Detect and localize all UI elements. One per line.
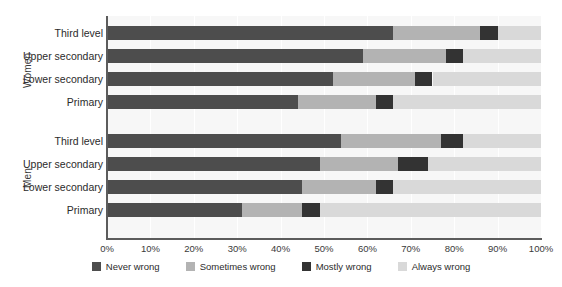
bar-segment	[107, 203, 242, 217]
x-tick-label: 50%	[314, 243, 333, 254]
bar-segment	[441, 134, 463, 148]
category-label: Third level	[3, 28, 103, 39]
category-label: Primary	[3, 97, 103, 108]
bar-row	[107, 203, 541, 217]
category-label: Lower secondary	[3, 74, 103, 85]
bar-segment	[428, 157, 541, 171]
bar-row	[107, 180, 541, 194]
legend-item[interactable]: Mostly wrong	[302, 261, 372, 272]
bar-segment	[341, 134, 441, 148]
bar-segment	[320, 157, 398, 171]
category-axis: Third levelUpper secondaryLower secondar…	[0, 0, 103, 240]
bar-segment	[107, 134, 341, 148]
bar-row	[107, 157, 541, 171]
x-tick-label: 90%	[488, 243, 507, 254]
bar-segment	[498, 26, 541, 40]
bar-segment	[107, 180, 302, 194]
legend-item[interactable]: Sometimes wrong	[186, 261, 276, 272]
bar-segment	[107, 26, 393, 40]
bar-segment	[107, 95, 298, 109]
bar-row	[107, 134, 541, 148]
legend-label: Never wrong	[106, 261, 160, 272]
legend-item[interactable]: Never wrong	[92, 261, 160, 272]
bar-segment	[298, 95, 376, 109]
bar-segment	[463, 134, 541, 148]
bar-row	[107, 26, 541, 40]
bar-segment	[363, 49, 445, 63]
x-tick-label: 10%	[141, 243, 160, 254]
bar-segment	[333, 72, 415, 86]
bar-segment	[393, 26, 480, 40]
stacked-bar-chart: Women Men Third levelUpper secondaryLowe…	[0, 0, 562, 287]
bar-segment	[107, 49, 363, 63]
category-label: Lower secondary	[3, 182, 103, 193]
legend-swatch	[302, 262, 311, 271]
bar-segment	[463, 49, 541, 63]
category-label: Upper secondary	[3, 51, 103, 62]
bar-segment	[107, 72, 333, 86]
plot-area	[107, 16, 541, 238]
y-axis-line	[106, 16, 108, 240]
x-axis-line	[106, 238, 542, 240]
bar-segment	[433, 72, 542, 86]
chart-legend: Never wrongSometimes wrongMostly wrongAl…	[0, 261, 562, 272]
category-label: Third level	[3, 136, 103, 147]
bar-segment	[393, 180, 541, 194]
bar-segment	[376, 180, 393, 194]
x-tick-label: 20%	[184, 243, 203, 254]
bar-segment	[480, 26, 497, 40]
legend-swatch	[398, 262, 407, 271]
x-tick-label: 70%	[401, 243, 420, 254]
gridline	[541, 16, 542, 238]
bar-segment	[415, 72, 432, 86]
legend-swatch	[186, 262, 195, 271]
bar-row	[107, 95, 541, 109]
bar-segment	[393, 95, 541, 109]
x-tick-label: 30%	[228, 243, 247, 254]
legend-swatch	[92, 262, 101, 271]
bar-segment	[242, 203, 303, 217]
bar-segment	[376, 95, 393, 109]
x-tick-label: 100%	[529, 243, 553, 254]
x-tick-label: 60%	[358, 243, 377, 254]
bar-segment	[302, 180, 376, 194]
bar-segment	[398, 157, 428, 171]
bar-row	[107, 49, 541, 63]
legend-label: Mostly wrong	[316, 261, 372, 272]
legend-label: Always wrong	[412, 261, 471, 272]
bar-segment	[446, 49, 463, 63]
bar-segment	[107, 157, 320, 171]
category-label: Upper secondary	[3, 159, 103, 170]
x-tick-label: 40%	[271, 243, 290, 254]
x-tick-label: 0%	[100, 243, 114, 254]
legend-item[interactable]: Always wrong	[398, 261, 471, 272]
bar-segment	[302, 203, 319, 217]
x-tick-label: 80%	[445, 243, 464, 254]
category-label: Primary	[3, 205, 103, 216]
legend-label: Sometimes wrong	[200, 261, 276, 272]
bar-row	[107, 72, 541, 86]
bar-segment	[320, 203, 541, 217]
